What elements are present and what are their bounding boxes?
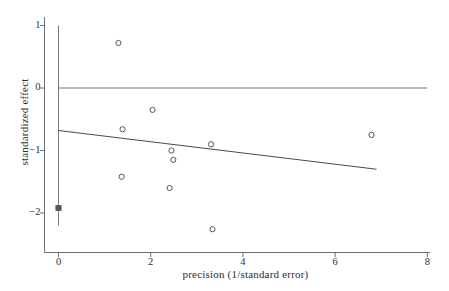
plot-canvas: [0, 0, 449, 291]
data-point[interactable]: [119, 174, 124, 179]
data-point[interactable]: [116, 40, 121, 45]
funnel-plot-figure: precision (1/standard error) standardize…: [0, 0, 449, 291]
x-tick-label: 2: [136, 256, 166, 267]
x-tick-label: 4: [228, 256, 258, 267]
egger-regression-line: [59, 131, 377, 170]
y-tick-label: −2: [11, 206, 41, 217]
x-tick-label: 8: [412, 256, 442, 267]
data-point[interactable]: [171, 157, 176, 162]
data-point[interactable]: [169, 148, 174, 153]
x-axis-title: precision (1/standard error): [0, 268, 449, 280]
data-point-summary[interactable]: [56, 205, 61, 210]
x-tick-label: 6: [320, 256, 350, 267]
x-tick-label: 0: [44, 256, 74, 267]
y-tick-label: −1: [11, 144, 41, 155]
data-point[interactable]: [210, 227, 215, 232]
data-point[interactable]: [208, 142, 213, 147]
y-axis-title: standardized effect: [18, 42, 30, 202]
data-point[interactable]: [120, 127, 125, 132]
y-tick-label: 1: [11, 19, 41, 30]
data-point[interactable]: [167, 185, 172, 190]
data-point[interactable]: [150, 107, 155, 112]
data-point[interactable]: [369, 132, 374, 137]
y-tick-label: 0: [11, 81, 41, 92]
